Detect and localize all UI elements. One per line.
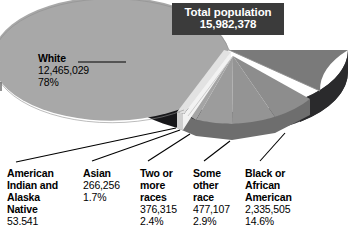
callout-some-other-percent: 2.9% bbox=[193, 216, 230, 228]
leader-line-asian bbox=[92, 130, 180, 161]
page-edge-artifact bbox=[0, 82, 2, 91]
total-population-box: Total population 15,982,378 bbox=[172, 3, 284, 35]
callout-two-or-more-races: Two or more races 376,315 2.4% bbox=[140, 168, 177, 228]
leader-line-two-or-more bbox=[148, 134, 190, 161]
callout-two-or-more-percent: 2.4% bbox=[140, 216, 177, 228]
callout-black-african-percent: 14.6% bbox=[245, 216, 292, 228]
leader-line-some-other bbox=[204, 141, 230, 161]
leader-line-american-indian bbox=[16, 128, 176, 162]
callout-white: White 12,465,029 78% bbox=[38, 53, 89, 89]
total-population-value: 15,982,378 bbox=[176, 18, 280, 30]
pie-chart-figure: Total population 15,982,378 White 12,465… bbox=[0, 0, 354, 240]
callout-american-indian-alaska-native: American Indian and Alaska Native 53.541 bbox=[7, 168, 58, 228]
pie-explode-gap-shadow bbox=[177, 112, 183, 130]
leader-line-black-african bbox=[260, 133, 285, 161]
callout-asian-percent: 1.7% bbox=[83, 192, 120, 204]
callout-black-african-american: Black or African American 2,335,505 14.6… bbox=[245, 168, 292, 228]
callout-some-other-race: Some other race 477,107 2.9% bbox=[193, 168, 230, 228]
callout-white-percent: 78% bbox=[38, 77, 89, 89]
callout-american-indian-value: 53.541 bbox=[7, 216, 58, 228]
callout-asian: Asian 266,256 1.7% bbox=[83, 168, 120, 204]
total-population-heading: Total population bbox=[176, 6, 280, 18]
